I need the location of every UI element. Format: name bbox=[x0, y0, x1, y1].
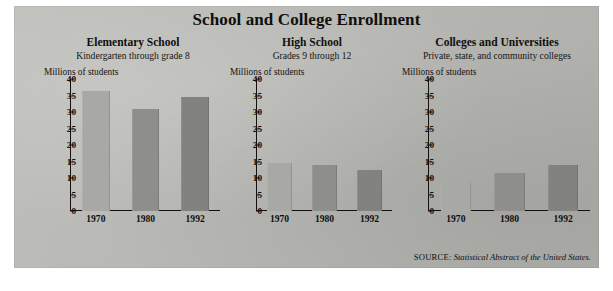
bar-rect bbox=[494, 173, 524, 211]
chart-figure: School and College Enrollment Elementary… bbox=[14, 6, 599, 268]
bar-1980 bbox=[494, 79, 524, 211]
bar-1970 bbox=[267, 79, 292, 211]
panel-subtitle: Grades 9 through 12 bbox=[226, 50, 398, 62]
bar-rect bbox=[312, 165, 337, 211]
bar-1992 bbox=[548, 79, 578, 211]
bar-rect bbox=[548, 165, 578, 211]
source-citation: SOURCE: Statistical Abstract of the Unit… bbox=[414, 252, 591, 262]
x-axis-tick-label: 1992 bbox=[536, 213, 590, 224]
x-axis-tick-label: 1970 bbox=[429, 213, 483, 224]
x-tick-group: 197019801992 bbox=[257, 211, 392, 227]
panel-title: Elementary School bbox=[40, 36, 226, 49]
page-title: School and College Enrollment bbox=[14, 10, 599, 30]
x-axis-tick-label: 1970 bbox=[71, 213, 121, 224]
x-tick-group: 197019801992 bbox=[429, 211, 590, 227]
x-axis-tick-label: 1980 bbox=[302, 213, 347, 224]
panel-subtitle: Private, state, and community colleges bbox=[398, 50, 596, 62]
chart-panel-colleges-universities: Colleges and Universities Private, state… bbox=[398, 36, 596, 264]
x-axis-tick-label: 1970 bbox=[257, 213, 302, 224]
x-axis-tick-label: 1980 bbox=[121, 213, 171, 224]
bar-rect bbox=[441, 183, 471, 211]
source-label: SOURCE: bbox=[414, 252, 452, 262]
bar-1970 bbox=[441, 79, 471, 211]
panel-subtitle: Kindergarten through grade 8 bbox=[40, 50, 226, 62]
bar-rect bbox=[357, 170, 382, 211]
bar-1980 bbox=[132, 79, 160, 211]
bar-rect bbox=[82, 91, 110, 211]
bar-1992 bbox=[357, 79, 382, 211]
bar-group bbox=[429, 79, 590, 211]
bar-rect bbox=[267, 163, 292, 211]
bar-rect bbox=[132, 109, 160, 211]
x-axis-tick-label: 1992 bbox=[347, 213, 392, 224]
source-title: Statistical Abstract of the United State… bbox=[454, 252, 591, 262]
x-axis-tick-label: 1980 bbox=[483, 213, 537, 224]
chart-panel-elementary-school: Elementary School Kindergarten through g… bbox=[40, 36, 226, 264]
plot-area: 0510152025303540 197019801992 bbox=[226, 79, 398, 227]
chart-panel-high-school: High School Grades 9 through 12 Millions… bbox=[226, 36, 398, 264]
bar-rect bbox=[181, 97, 209, 211]
bar-group bbox=[71, 79, 220, 211]
plot-area: 0510152025303540 197019801992 bbox=[398, 79, 596, 227]
bar-1970 bbox=[82, 79, 110, 211]
bar-1992 bbox=[181, 79, 209, 211]
x-axis-tick-label: 1992 bbox=[170, 213, 220, 224]
x-tick-group: 197019801992 bbox=[71, 211, 220, 227]
bar-1980 bbox=[312, 79, 337, 211]
bar-group bbox=[257, 79, 392, 211]
panel-title: Colleges and Universities bbox=[398, 36, 596, 49]
panel-title: High School bbox=[226, 36, 398, 49]
plot-area: 0510152025303540 197019801992 bbox=[40, 79, 226, 227]
